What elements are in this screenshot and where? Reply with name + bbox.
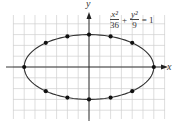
data-point <box>65 34 69 38</box>
data-point <box>44 89 48 93</box>
x-fraction: x² 36 <box>110 9 119 30</box>
data-point <box>109 95 113 99</box>
equals-one: = 1 <box>142 15 154 25</box>
data-point <box>130 89 134 93</box>
data-point <box>87 33 91 37</box>
equation-label: x² 36 + y² 9 = 1 <box>110 9 154 30</box>
data-point <box>109 34 113 38</box>
data-point <box>65 95 69 99</box>
y-denominator: 9 <box>132 20 137 30</box>
x-numerator: x² <box>110 9 119 20</box>
x-axis-label: x <box>167 61 171 72</box>
y-fraction: y² 9 <box>130 9 139 30</box>
data-point <box>152 65 156 69</box>
y-axis-label: y <box>86 0 90 9</box>
data-point <box>87 97 91 101</box>
plus-sign: + <box>122 15 127 25</box>
data-point <box>22 65 26 69</box>
data-point <box>44 41 48 45</box>
x-denominator: 36 <box>110 20 119 30</box>
y-numerator: y² <box>130 9 139 20</box>
data-point <box>130 41 134 45</box>
